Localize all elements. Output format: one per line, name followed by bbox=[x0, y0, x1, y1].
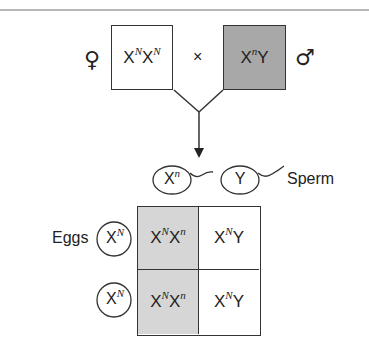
sperm-gamete-y: Y bbox=[221, 170, 259, 188]
egg-gamete-2: XN bbox=[97, 290, 133, 308]
punnett-cell-0-1: XNY bbox=[199, 207, 259, 270]
cross-symbol: × bbox=[193, 48, 202, 66]
sperm-tail-icon bbox=[190, 172, 213, 177]
punnett-grid: XNXn XNY XNXn XNY bbox=[137, 206, 261, 336]
sperm-label: Sperm bbox=[287, 170, 334, 188]
male-genotype-box: XnY bbox=[223, 25, 286, 90]
arrow-down-icon bbox=[194, 148, 204, 158]
sperm-gamete-xn: Xn bbox=[153, 170, 191, 188]
egg-gamete-1: XN bbox=[97, 229, 133, 247]
male-symbol-icon: ♂ bbox=[295, 45, 315, 70]
female-genotype-box: XNXN bbox=[111, 25, 173, 90]
eggs-label: Eggs bbox=[52, 229, 88, 247]
female-symbol-icon: ♀ bbox=[84, 47, 100, 72]
sperm-tail-icon bbox=[258, 166, 284, 176]
punnett-cell-1-0: XNXn bbox=[138, 270, 199, 334]
punnett-cell-0-0: XNXn bbox=[138, 207, 199, 270]
punnett-cell-1-1: XNY bbox=[199, 270, 259, 334]
